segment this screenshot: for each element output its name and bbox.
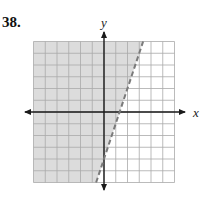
x-axis-label: x [192,105,199,120]
inequality-graph: x y [0,0,207,199]
y-axis-label: y [99,15,107,30]
